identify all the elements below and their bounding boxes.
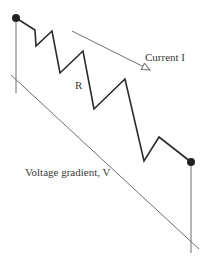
current-label: Current I [145, 51, 185, 63]
start-terminal-node [12, 14, 20, 22]
voltage-gradient-label: Voltage gradient, V [25, 166, 110, 178]
end-terminal-node [187, 158, 195, 166]
resistance-label: R [75, 79, 83, 91]
voltage-gradient-line [11, 75, 199, 249]
resistor-voltage-diagram: R Current I Voltage gradient, V [0, 0, 207, 263]
resistor-zigzag [16, 18, 191, 162]
